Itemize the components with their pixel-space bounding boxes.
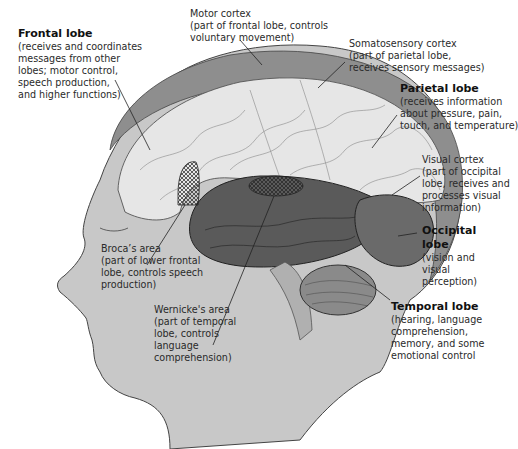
label-brocas-area: Broca’s area (part of lower frontal lobe…	[101, 243, 203, 291]
label-parietal-lobe: Parietal lobe (receives information abou…	[400, 82, 518, 132]
label-frontal-lobe: Frontal lobe (receives and coordinates m…	[18, 27, 142, 101]
label-somatosensory-cortex: Somatosensory cortex (part of parietal l…	[349, 38, 484, 74]
label-visual-cortex: Visual cortex (part of occipital lobe, r…	[422, 154, 510, 214]
label-motor-cortex: Motor cortex (part of frontal lobe, cont…	[190, 8, 328, 44]
cerebellum	[300, 265, 376, 315]
label-occipital-lobe: Occipital lobe (vision and visual percep…	[422, 224, 477, 288]
wernickes-area-region	[249, 176, 303, 196]
label-temporal-lobe: Temporal lobe (hearing, language compreh…	[391, 300, 484, 362]
label-wernickes-area: Wernicke's area (part of temporal lobe, …	[154, 304, 236, 364]
